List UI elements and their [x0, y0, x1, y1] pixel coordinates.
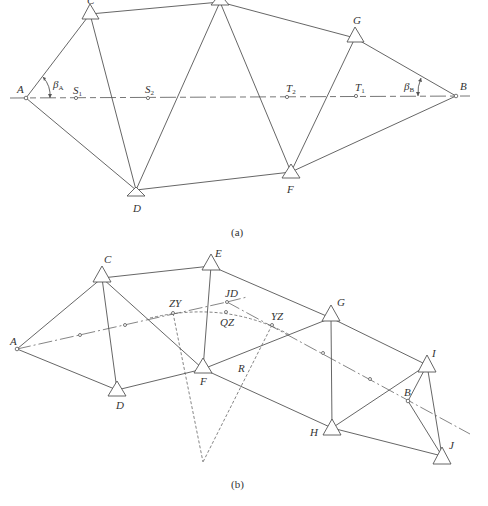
- centerline-point: [79, 334, 82, 337]
- label-e: E: [214, 247, 222, 259]
- arrow-icon: [416, 92, 420, 96]
- diagram-a: A B C G D F S1 S2 T2 T1 βA βB (a): [10, 0, 470, 239]
- label-f: F: [286, 183, 294, 195]
- centerline-point: [322, 352, 325, 355]
- svg-text:βA: βA: [52, 78, 64, 92]
- label-a: A: [16, 83, 24, 95]
- centerline-point: [124, 324, 127, 327]
- station-c-triangle-icon: [93, 266, 111, 282]
- caption-a: (a): [231, 226, 244, 239]
- station-c-triangle-icon: [82, 4, 99, 19]
- point-t2: [285, 95, 288, 98]
- svg-text:S1: S1: [73, 84, 83, 98]
- route-centerline: [17, 302, 227, 349]
- label-h: H: [309, 426, 319, 438]
- station-d-triangle-icon: [127, 187, 145, 196]
- traverse-network-diagram: A B C G D F S1 S2 T2 T1 βA βB (a): [0, 0, 488, 506]
- label-c: C: [87, 0, 95, 6]
- label-g: G: [337, 296, 345, 308]
- svg-text:T2: T2: [286, 82, 296, 96]
- label-d: D: [115, 399, 124, 411]
- station-f-triangle-icon: [282, 164, 300, 178]
- station-f-triangle-icon: [194, 358, 212, 373]
- label-a: A: [9, 335, 17, 347]
- label-i: I: [431, 347, 437, 359]
- label-b: B: [404, 386, 411, 398]
- radius-line-zy: [173, 313, 203, 462]
- label-d: D: [132, 202, 141, 214]
- label-g: G: [353, 14, 361, 26]
- svg-text:βB: βB: [403, 80, 414, 94]
- point-b: [406, 399, 410, 403]
- station-g-triangle-icon: [347, 27, 364, 42]
- station-e-triangle-icon: [211, 0, 229, 5]
- label-zy: ZY: [169, 297, 183, 309]
- point-s2: [146, 96, 149, 99]
- svg-text:T1: T1: [355, 81, 365, 95]
- point-yz: [271, 324, 274, 327]
- caption-b: (b): [231, 478, 244, 491]
- label-c: C: [104, 253, 112, 265]
- label-jd: JD: [225, 287, 238, 299]
- label-r: R: [237, 362, 245, 374]
- point-a: [15, 347, 19, 351]
- point-b: [454, 94, 458, 98]
- label-qz: QZ: [220, 316, 235, 328]
- diagram-b: A C E G D F H I J B ZY JD QZ YZ R (b): [9, 247, 470, 491]
- label-f: F: [199, 375, 207, 387]
- point-qz: [225, 311, 228, 314]
- label-j: J: [449, 439, 455, 451]
- label-yz: YZ: [271, 310, 284, 322]
- centerline-point: [369, 378, 372, 381]
- label-b: B: [460, 80, 467, 92]
- point-s1: [74, 96, 77, 99]
- point-a: [24, 96, 28, 100]
- point-zy: [172, 312, 175, 315]
- point-t1: [354, 94, 357, 97]
- point-jd: [226, 301, 229, 304]
- arrow-icon: [418, 78, 422, 82]
- station-h-triangle-icon: [323, 419, 341, 435]
- svg-text:S2: S2: [145, 83, 155, 97]
